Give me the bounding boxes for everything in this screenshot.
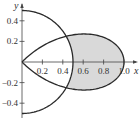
- x-tick-label: 1.0: [118, 66, 130, 76]
- y-axis-arrow: [20, 3, 23, 8]
- y-axis-label: y: [13, 0, 19, 11]
- y-tick-label: −0.2: [2, 78, 18, 88]
- y-tick-label: 0.4: [7, 16, 19, 26]
- y-tick-label: −0.4: [2, 98, 19, 108]
- chart: 0.20.40.60.81.00.40.2−0.2−0.4 x y: [0, 0, 140, 120]
- x-axis-label: x: [133, 65, 139, 76]
- x-tick-label: 0.6: [78, 66, 90, 76]
- x-tick-label: 0.4: [57, 66, 69, 76]
- x-tick-label: 0.8: [98, 66, 110, 76]
- y-tick-label: 0.2: [7, 36, 18, 46]
- x-tick-label: 0.2: [37, 66, 48, 76]
- x-axis-arrow: [133, 60, 138, 63]
